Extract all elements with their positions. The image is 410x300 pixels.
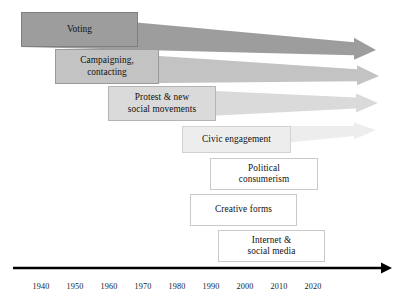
axis-arrowhead-icon [381, 263, 392, 274]
figure-canvas: VotingCampaigning, contactingProtest & n… [0, 0, 410, 300]
axis-year-1960: 1960 [100, 282, 117, 291]
axis-year-2010: 2010 [270, 282, 287, 291]
axis-year-1940: 1940 [32, 282, 49, 291]
axis-year-1950: 1950 [66, 282, 83, 291]
axis-year-2020: 2020 [304, 282, 321, 291]
axis-year-1980: 1980 [168, 282, 185, 291]
axis-year-2000: 2000 [236, 282, 253, 291]
axis-year-1990: 1990 [202, 282, 219, 291]
axis-year-1970: 1970 [134, 282, 151, 291]
timeline-axis [0, 0, 410, 300]
